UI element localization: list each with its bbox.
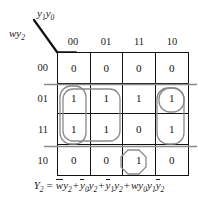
kmap-cell-r1c0: 1 <box>58 84 91 115</box>
kmap-cell-r1c2: 1 <box>123 84 156 115</box>
row-header-01: 01 <box>22 94 48 105</box>
column-header-10: 10 <box>156 37 188 48</box>
column-header-00: 00 <box>57 37 89 48</box>
column-header-01: 01 <box>90 37 122 48</box>
kmap-cell-r3c2: 1 <box>123 145 156 176</box>
equation-term-4: wy0y1y2 <box>131 179 164 191</box>
kmap-cell-r3c3: 0 <box>156 145 189 176</box>
equals-sign: = <box>44 179 56 191</box>
kmap-cell-r2c2: 0 <box>123 114 156 145</box>
equation-lhs: Y2 <box>34 179 44 191</box>
kmap-cell-r1c1: 1 <box>91 84 124 115</box>
kmap-cell-r0c1: 0 <box>91 53 124 84</box>
kmap-cell-r1c3: 1 <box>156 84 189 115</box>
column-header-11: 11 <box>123 37 155 48</box>
kmap-cell-r3c1: 0 <box>91 145 124 176</box>
plus-3: + <box>123 179 131 191</box>
equation-term-3: y1y2 <box>106 179 123 191</box>
kmap-cell-r2c1: 1 <box>91 114 124 145</box>
equation-term-2: y0y2 <box>80 179 97 191</box>
kmap-cell-r2c3: 1 <box>156 114 189 145</box>
row-header-00: 00 <box>22 63 48 74</box>
kmap-cell-r0c0: 0 <box>58 53 91 84</box>
equation-term-1: wy2 <box>56 179 72 191</box>
plus-1: + <box>72 179 80 191</box>
kmap-cell-r0c3: 0 <box>156 53 189 84</box>
kmap-cell-r0c2: 0 <box>123 53 156 84</box>
kmap-cell-r2c0: 1 <box>58 114 91 145</box>
row-variable-label: wy2 <box>9 28 25 42</box>
row-header-10: 10 <box>22 156 48 167</box>
kmap-grid: 0 0 0 0 1 1 1 1 1 1 0 1 0 0 1 0 <box>57 52 189 176</box>
row-header-11: 11 <box>22 125 48 136</box>
kmap-cell-r3c0: 0 <box>58 145 91 176</box>
column-variable-label: y1y0 <box>37 8 54 22</box>
boolean-equation: Y2=wy2+y0y2+y1y2+wy0y1y2 <box>0 180 198 194</box>
plus-2: + <box>97 179 105 191</box>
karnaugh-map-figure: y1y0 wy2 00 01 11 10 00 01 11 10 0 0 0 0… <box>0 0 198 204</box>
